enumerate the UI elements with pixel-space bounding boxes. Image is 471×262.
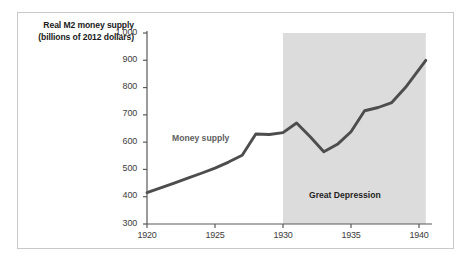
x-axis-tick-marks — [147, 224, 419, 228]
y-tick-label: 900 — [99, 54, 137, 64]
x-tick-label: 1935 — [331, 230, 371, 240]
y-tick-label: 400 — [99, 190, 137, 200]
y-tick-label: 300 — [99, 218, 137, 228]
money-supply-series-label: Money supply — [172, 133, 229, 143]
x-tick-label: 1930 — [263, 230, 303, 240]
y-tick-label: 800 — [99, 81, 137, 91]
x-tick-label: 1920 — [127, 230, 167, 240]
y-tick-label: 1,000 — [99, 27, 137, 37]
great-depression-label: Great Depression — [309, 190, 381, 200]
y-tick-label: 500 — [99, 163, 137, 173]
y-tick-label: 700 — [99, 108, 137, 118]
y-tick-label: 600 — [99, 136, 137, 146]
x-tick-label: 1925 — [195, 230, 235, 240]
x-tick-label: 1940 — [399, 230, 439, 240]
